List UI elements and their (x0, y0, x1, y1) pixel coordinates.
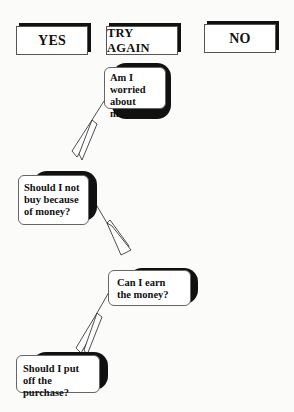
question-text: Should I put off the purchase? (23, 363, 79, 398)
question-bubble-earn[interactable]: Can I earn the money? (108, 270, 191, 306)
question-bubble-worried[interactable]: Am I worried about money? (104, 67, 166, 109)
flowchart-canvas: YES TRY AGAIN NO Am I worried about mone… (0, 0, 294, 412)
question-bubble-not-buy[interactable]: Should I not buy because of money? (18, 175, 89, 225)
question-text: Can I earn the money? (117, 277, 169, 300)
question-text: Am I worried about money? (110, 72, 146, 119)
question-text: Should I not buy because of money? (24, 182, 79, 217)
question-bubble-put-off[interactable]: Should I put off the purchase? (16, 355, 100, 393)
